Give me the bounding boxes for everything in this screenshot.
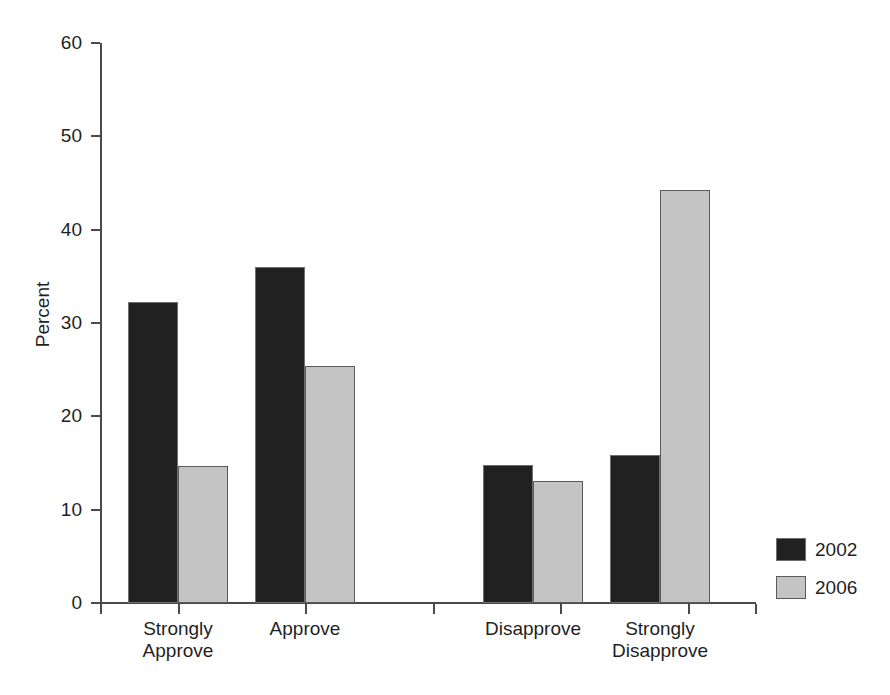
y-axis-tick-label: 50 (36, 126, 82, 145)
plot-area: Percent 0102030405060 Strongly ApproveAp… (0, 0, 890, 695)
y-axis-tick-label: 10 (36, 500, 82, 519)
y-axis-tick (91, 322, 100, 324)
bar-2002-disapprove (483, 465, 533, 603)
y-axis-tick (91, 415, 100, 417)
y-axis-tick-label: 40 (36, 220, 82, 239)
y-axis-tick (91, 509, 100, 511)
x-axis-tick (178, 604, 180, 614)
x-axis-category-label: Strongly Disapprove (570, 618, 750, 662)
x-axis-category-label: Approve (215, 618, 395, 640)
x-axis-tick (305, 604, 307, 614)
legend-label: 2006 (815, 578, 857, 597)
bar-2006-approve (305, 366, 355, 603)
y-axis-tick (91, 135, 100, 137)
x-axis-tick (755, 604, 757, 614)
light-swatch (776, 576, 806, 599)
y-axis-tick-label: 0 (36, 593, 82, 612)
bar-2002-strongly-disapprove (610, 455, 660, 603)
y-axis-tick (91, 229, 100, 231)
y-axis-tick (91, 42, 100, 44)
y-axis-line (100, 43, 102, 604)
bar-2006-strongly-disapprove (660, 190, 710, 603)
x-axis-tick (560, 604, 562, 614)
bar-2002-approve (255, 267, 305, 603)
y-axis-tick-label: 60 (36, 33, 82, 52)
x-axis-tick (100, 604, 102, 614)
bar-2006-strongly-approve (178, 466, 228, 603)
x-axis-tick (433, 604, 435, 614)
legend-item: 2002 (776, 534, 857, 564)
legend-item: 2006 (776, 572, 857, 602)
bar-2002-strongly-approve (128, 302, 178, 603)
y-axis-tick-label: 20 (36, 406, 82, 425)
dark-swatch (776, 538, 806, 561)
legend: 20022006 (776, 534, 857, 610)
legend-label: 2002 (815, 540, 857, 559)
y-axis-tick (91, 602, 100, 604)
x-axis-tick (688, 604, 690, 614)
chart-figure: Percent 0102030405060 Strongly ApproveAp… (0, 0, 890, 695)
bar-2006-disapprove (533, 481, 583, 603)
y-axis-tick-label: 30 (36, 313, 82, 332)
